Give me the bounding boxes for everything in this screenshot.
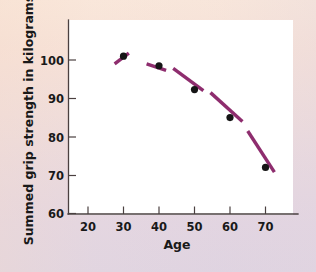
x-tick-label-60: 60 [222, 220, 238, 234]
x-tick-label-30: 30 [115, 220, 131, 234]
data-point [120, 53, 127, 60]
y-tick-label-90: 90 [48, 92, 64, 106]
x-tick-label-70: 70 [257, 220, 273, 234]
figure-container: 60 70 80 90 100 20 30 40 50 60 70 Age Su… [0, 0, 316, 272]
data-point [226, 114, 233, 121]
grip-strength-scatter-chart: 60 70 80 90 100 20 30 40 50 60 70 Age Su… [0, 0, 316, 272]
data-point [191, 86, 198, 93]
plot-area-background [68, 20, 293, 215]
y-tick-label-80: 80 [48, 131, 64, 145]
y-tick-label-60: 60 [48, 207, 64, 221]
y-tick-label-70: 70 [48, 169, 64, 183]
data-point [262, 164, 269, 171]
y-axis-title: Summed grip strength in kilograms [21, 0, 36, 245]
y-tick-label-100: 100 [40, 54, 64, 68]
x-tick-label-20: 20 [80, 220, 96, 234]
data-point [155, 62, 162, 69]
x-axis-title: Age [163, 237, 190, 252]
x-tick-label-40: 40 [151, 220, 167, 234]
x-tick-label-50: 50 [186, 220, 202, 234]
